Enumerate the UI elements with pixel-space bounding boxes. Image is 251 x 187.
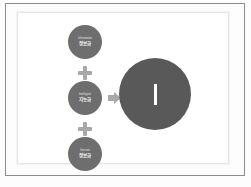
input-circle-3-label-ko: 정보화	[79, 154, 91, 158]
page-frame-bottom	[6, 175, 245, 176]
input-circle-2-label-en: Intelligent	[79, 94, 91, 97]
page-frame-right	[244, 3, 245, 176]
input-circle-3-label-en: Internet	[80, 150, 90, 153]
input-circle-1-label-en: Information	[78, 38, 92, 41]
plus-icon-1	[78, 66, 92, 80]
input-circle-2: Intelligent 지능화	[68, 81, 102, 115]
input-circle-2-label-ko: 지능화	[79, 98, 91, 102]
input-circle-1-label-ko: 정보화	[79, 42, 91, 46]
input-circle-3: Internet 정보화	[68, 137, 102, 171]
plus-icon-2	[78, 122, 92, 136]
page-frame-left	[5, 3, 6, 176]
input-circle-1: Information 정보화	[68, 25, 102, 59]
result-circle	[119, 58, 191, 130]
page-frame-top	[6, 3, 245, 4]
scanned-page: Information 정보화 Intelligent 지능화 Internet…	[0, 0, 251, 187]
slide-panel: Information 정보화 Intelligent 지능화 Internet…	[17, 12, 229, 164]
result-glyph-icon	[154, 84, 157, 105]
